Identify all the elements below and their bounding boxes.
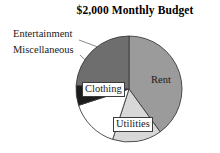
slice-label-entertainment: Entertainment bbox=[13, 28, 72, 39]
slice-label-rent: Rent bbox=[151, 74, 171, 86]
pie-chart-canvas bbox=[0, 0, 220, 153]
slice-label-clothing: Clothing bbox=[82, 82, 125, 97]
pie-chart-figure: $2,000 Monthly Budget Entertainment Misc… bbox=[0, 0, 220, 153]
slice-label-miscellaneous: Miscellaneous bbox=[13, 44, 74, 55]
slice-label-utilities: Utilities bbox=[113, 117, 153, 132]
